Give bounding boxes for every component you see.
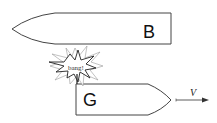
boat-g-label: G <box>83 90 97 110</box>
boat-b: B <box>12 13 171 44</box>
boat-g: G <box>76 84 171 115</box>
arrow-head-icon <box>202 98 209 103</box>
boat-b-label: B <box>143 22 155 42</box>
collision-diagram: B G bang! V <box>0 0 217 123</box>
bang-label: bang! <box>68 64 84 72</box>
collision-burst: bang! <box>49 46 103 86</box>
velocity-vector: V <box>176 87 209 103</box>
velocity-label: V <box>190 87 198 98</box>
